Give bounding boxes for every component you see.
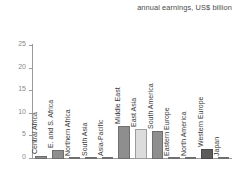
y-axis-tick-mark [29,90,32,91]
y-axis-tick: 5 [2,135,32,136]
bar[interactable] [69,157,81,159]
bar[interactable] [135,129,147,159]
y-axis-tick: 0 [2,158,32,159]
bar-category-label: East Asia [130,98,137,127]
bar-category-label: South Asia [81,122,88,155]
y-axis-tick-label: 20 [18,63,26,70]
y-axis-tick-label: 25 [18,40,26,47]
y-axis-tick-mark [29,158,32,159]
y-axis-tick-label: 15 [18,85,26,92]
y-axis-tick-label: 5 [22,130,26,137]
bar-category-label: Asia-Pacific [97,119,104,156]
y-axis-tick: 15 [2,90,32,91]
bar-category-label: South America [147,83,154,129]
bar-category-label: Eastern Europe [163,107,170,156]
chart-figure: annual earnings, US$ billion 0510152025 … [0,0,240,171]
y-axis-tick-label: 0 [22,153,26,160]
y-axis-tick: 10 [2,113,32,114]
bar-category-label: Western Europe [197,96,204,146]
bar-category-label: E. and S. Africa [47,99,54,147]
bar-category-label: Northern Africa [64,109,71,156]
chart-subtitle: annual earnings, US$ billion [137,3,232,12]
bar-category-label: Middle East [114,87,121,124]
bar[interactable] [185,157,197,159]
bar[interactable] [218,157,230,159]
plot-area: 0510152025 Central AfricaE. and S. Afric… [32,44,232,161]
y-axis-tick: 20 [2,68,32,69]
y-axis-tick: 25 [2,45,32,46]
bar-category-label: Central Africa [31,112,38,154]
bar[interactable] [168,157,180,159]
bar[interactable] [152,131,164,159]
bar[interactable] [85,157,97,159]
y-axis-tick-mark [29,45,32,46]
y-axis-tick-label: 10 [18,108,26,115]
bar[interactable] [102,157,114,159]
y-axis-tick-mark [29,68,32,69]
bar-series: Central AfricaE. and S. AfricaNorthern A… [33,46,232,159]
bar-category-label: Japan [213,136,220,155]
bar[interactable] [201,149,213,159]
bar[interactable] [52,150,64,159]
bar-slot[interactable]: Japan [215,46,232,159]
bar[interactable] [118,126,130,159]
bar-category-label: North America [180,111,187,155]
bar[interactable] [35,156,47,159]
